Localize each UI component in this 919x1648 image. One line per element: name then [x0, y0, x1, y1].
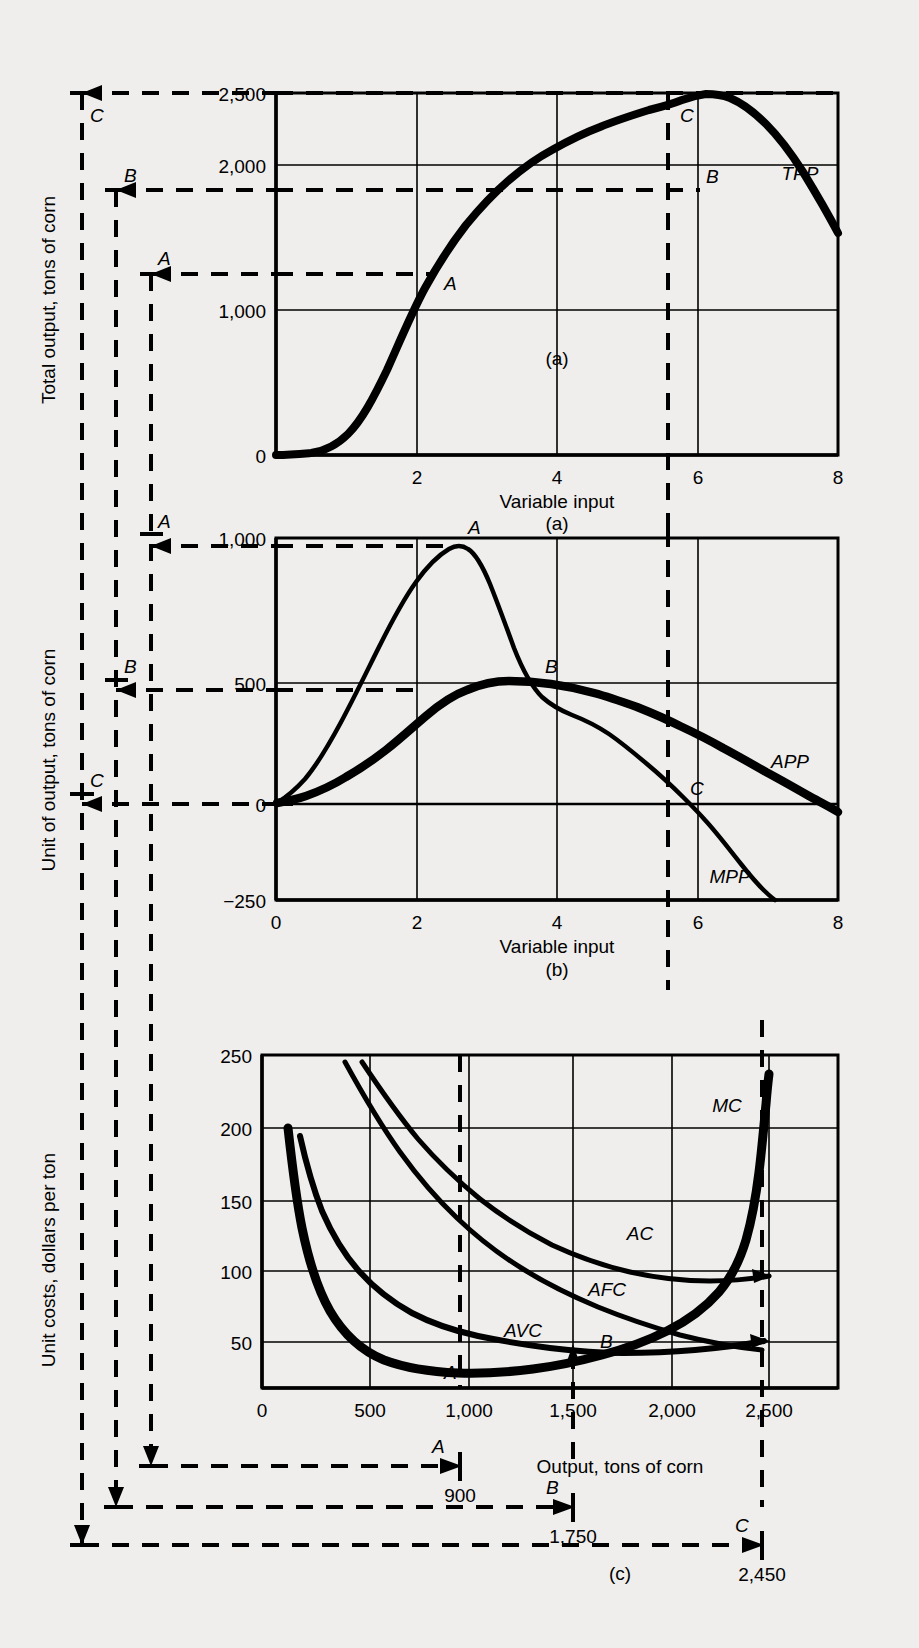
- panel-b-xlabel: Variable input: [500, 936, 616, 957]
- panel-c-xtick-2000: 2,000: [648, 1400, 696, 1421]
- panel-c-xlabel: Output, tons of corn: [537, 1456, 704, 1477]
- panel-c-point-b: B: [600, 1331, 613, 1352]
- bottom-label-b: B: [546, 1477, 559, 1498]
- bottom-label-a: A: [431, 1436, 445, 1457]
- panel-b-ytick-0: 0: [255, 795, 266, 816]
- panel-c-xtick-0: 0: [257, 1400, 268, 1421]
- panel-a-ylabel: Total output, tons of corn: [38, 196, 59, 404]
- avc-label: AVC: [503, 1320, 542, 1341]
- panel-a-ytick-1000: 1,000: [218, 301, 266, 322]
- panel-b-xtick-0: 0: [271, 912, 282, 933]
- panel-c-ytick-250: 250: [220, 1046, 252, 1067]
- panel-c-ylabel: Unit costs, dollars per ton: [38, 1153, 59, 1367]
- economics-production-cost-figure: C B A Total output, tons of corn 2,500 2…: [0, 0, 919, 1648]
- panel-a-inner-caption: (a): [545, 348, 568, 369]
- afc-label: AFC: [587, 1279, 626, 1300]
- connector-label-c-a: C: [90, 105, 104, 126]
- panel-c-xtick-500: 500: [354, 1400, 386, 1421]
- bottom-label-c: C: [735, 1515, 749, 1536]
- panel-b-ytick-neg250: −250: [223, 891, 266, 912]
- panel-b-point-c: C: [690, 778, 704, 799]
- panel-a-ytick-2500: 2,500: [218, 84, 266, 105]
- panel-a-point-a: A: [443, 273, 457, 294]
- panel-b-point-a: A: [467, 517, 481, 538]
- figure-svg: C B A Total output, tons of corn 2,500 2…: [0, 0, 919, 1648]
- panel-c-xtick-1000: 1,000: [445, 1400, 493, 1421]
- panel-b-ytick-1000: 1,000: [218, 529, 266, 550]
- panel-a-xtick-6: 6: [693, 467, 704, 488]
- panel-b-ytick-500: 500: [234, 674, 266, 695]
- panel-a-xtick-4: 4: [552, 467, 563, 488]
- panel-b-xtick-6: 6: [693, 912, 704, 933]
- mpp-label: MPP: [709, 866, 751, 887]
- panel-b-xtick-2: 2: [412, 912, 423, 933]
- app-label: APP: [770, 751, 809, 772]
- panel-a-point-b: B: [706, 166, 719, 187]
- panel-a-ytick-2000: 2,000: [218, 156, 266, 177]
- ac-label: AC: [626, 1223, 654, 1244]
- mc-label: MC: [712, 1095, 742, 1116]
- tpp-label: TPP: [782, 163, 819, 184]
- panel-c-ytick-50: 50: [231, 1333, 252, 1354]
- connector-label-b-b: B: [124, 656, 137, 677]
- panel-b-xtick-8: 8: [833, 912, 844, 933]
- panel-c-ytick-100: 100: [220, 1262, 252, 1283]
- bottom-value-900: 900: [444, 1485, 476, 1506]
- panel-b-point-b: B: [545, 656, 558, 677]
- panel-a-xtick-2: 2: [412, 467, 423, 488]
- panel-a-xlabel: Variable input: [500, 491, 616, 512]
- panel-c-point-a: A: [443, 1362, 457, 1383]
- bottom-value-2450: 2,450: [738, 1564, 786, 1585]
- panel-c-ytick-200: 200: [220, 1119, 252, 1140]
- panel-c-caption: (c): [609, 1563, 631, 1584]
- panel-c-xtick-2500: 2,500: [745, 1400, 793, 1421]
- connector-label-c-b: C: [90, 770, 104, 791]
- panel-c-ytick-150: 150: [220, 1192, 252, 1213]
- connector-label-a-a: A: [157, 248, 171, 269]
- panel-a-xtick-8: 8: [833, 467, 844, 488]
- panel-a-ytick-0: 0: [255, 446, 266, 467]
- connector-label-a-b: A: [157, 511, 171, 532]
- panel-b-caption: (b): [545, 959, 568, 980]
- panel-b-ylabel: Unit of output, tons of corn: [38, 649, 59, 872]
- panel-a-caption: (a): [545, 513, 568, 534]
- panel-a-point-c: C: [680, 105, 694, 126]
- panel-b-xtick-4: 4: [552, 912, 563, 933]
